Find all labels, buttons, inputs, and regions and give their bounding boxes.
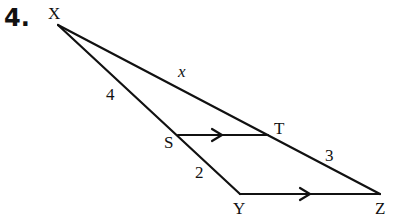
vertex-label-y: Y bbox=[233, 199, 245, 219]
geometry-diagram: 4. X S T Y Z x 4 2 3 bbox=[0, 0, 395, 222]
vertex-label-t: T bbox=[274, 119, 284, 139]
segment-label-sy: 2 bbox=[195, 163, 204, 183]
vertex-label-x: X bbox=[48, 4, 60, 24]
vertex-label-z: Z bbox=[375, 199, 385, 219]
segment-label-xs: 4 bbox=[106, 85, 115, 105]
triangle-figure bbox=[0, 0, 395, 222]
segment-xy bbox=[58, 25, 240, 194]
segment-label-xt: x bbox=[178, 62, 186, 82]
segment-label-tz: 3 bbox=[325, 146, 334, 166]
vertex-label-s: S bbox=[164, 133, 173, 153]
segment-xz bbox=[58, 25, 380, 194]
